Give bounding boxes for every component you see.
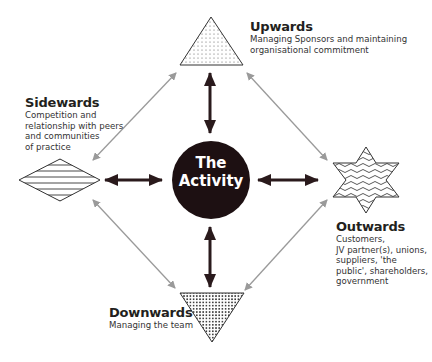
outwards-desc-line3: suppliers, 'the: [336, 255, 428, 266]
outwards-desc-line5: government: [336, 276, 428, 287]
downwards-title: Downwards: [109, 305, 193, 320]
outwards-label: Outwards Customers, JV partner(s), union…: [336, 219, 428, 287]
sidewards-desc-line1: Competition and: [25, 110, 123, 121]
upwards-label: Upwards Managing Sponsors and maintainin…: [250, 19, 407, 55]
sidewards-desc-line3: and communities: [25, 131, 123, 142]
connector-sidewards-downwards: [93, 200, 175, 288]
sidewards-diamond-icon: [19, 159, 100, 201]
connector-upwards-outwards: [247, 73, 327, 160]
activity-label: The Activity: [172, 154, 250, 190]
downwards-label: Downwards Managing the team: [109, 305, 193, 331]
upwards-title: Upwards: [250, 19, 407, 34]
upwards-triangle-icon: [180, 17, 243, 65]
sidewards-desc-line4: of practice: [25, 142, 123, 153]
outwards-desc-line1: Customers,: [336, 234, 428, 245]
upwards-desc-line1: Managing Sponsors and maintaining: [250, 34, 407, 45]
upwards-desc-line2: organisational commitment: [250, 45, 407, 56]
sidewards-title: Sidewards: [25, 95, 123, 110]
sidewards-label: Sidewards Competition and relationship w…: [25, 95, 123, 152]
sidewards-desc-line2: relationship with peers: [25, 121, 123, 132]
connector-outwards-downwards: [245, 200, 327, 290]
outwards-title: Outwards: [336, 219, 428, 234]
outwards-desc-line4: public', shareholders,: [336, 266, 428, 277]
downwards-desc-line1: Managing the team: [109, 320, 193, 331]
outwards-desc-line2: JV partner(s), unions,: [336, 245, 428, 256]
activity-label-line2: Activity: [172, 172, 250, 190]
outwards-star-icon: [333, 147, 399, 213]
activity-label-line1: The: [172, 154, 250, 172]
